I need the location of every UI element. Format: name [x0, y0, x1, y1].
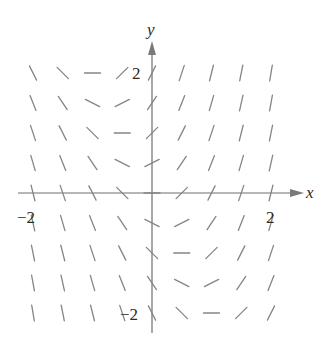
- slope-segment: [238, 246, 245, 260]
- slope-segment: [179, 65, 184, 80]
- slope-segment: [90, 275, 94, 290]
- slope-segment: [239, 155, 243, 170]
- y-tick-label-neg2: −2: [120, 305, 138, 324]
- slope-segment: [177, 156, 186, 169]
- slope-segment: [209, 95, 213, 110]
- slope-segment: [60, 156, 66, 171]
- slope-segment: [115, 99, 129, 106]
- slope-segment: [269, 155, 272, 171]
- x-tick-label-2: 2: [266, 208, 275, 227]
- slope-segment: [115, 159, 129, 166]
- slope-segment: [179, 96, 185, 111]
- slope-segment: [238, 216, 244, 231]
- slope-segment: [91, 305, 95, 321]
- slope-segment: [61, 215, 65, 230]
- slope-segment: [61, 245, 65, 261]
- slope-segment: [90, 216, 96, 231]
- slope-segment: [117, 67, 128, 78]
- slope-segment: [268, 245, 273, 260]
- slope-segment: [90, 245, 95, 260]
- slope-segment: [58, 96, 67, 109]
- y-axis-label: y: [145, 20, 155, 39]
- slope-segment: [85, 99, 99, 106]
- slope-segment: [119, 246, 126, 260]
- slope-segment: [87, 127, 98, 138]
- slope-segment: [31, 155, 35, 170]
- slope-segment: [30, 96, 36, 111]
- slope-segment: [30, 125, 35, 140]
- x-axis-label: x: [305, 183, 314, 202]
- slope-segment: [209, 156, 215, 171]
- slope-segment: [237, 276, 246, 289]
- y-tick-label-2: 2: [132, 64, 141, 83]
- slope-segment: [240, 65, 243, 81]
- slope-segment: [270, 95, 273, 111]
- y-axis-arrow-icon: [148, 41, 156, 55]
- x-axis-arrow-icon: [290, 189, 304, 197]
- slope-segment: [209, 125, 214, 140]
- slope-segment: [210, 65, 214, 81]
- slope-segment: [175, 219, 189, 226]
- slope-segment: [270, 65, 273, 81]
- slope-segment: [88, 156, 97, 169]
- slope-segment: [240, 95, 243, 111]
- slope-segment: [207, 216, 216, 229]
- slope-segment: [176, 307, 187, 318]
- slope-segment: [119, 276, 125, 291]
- slope-segment: [206, 247, 217, 258]
- slope-segment: [269, 125, 272, 141]
- slope-segment: [31, 245, 34, 261]
- slope-segment: [32, 305, 35, 321]
- slope-segment: [61, 275, 64, 291]
- slope-segment: [267, 306, 274, 320]
- slope-segment: [236, 307, 247, 318]
- slope-segment: [59, 126, 66, 140]
- slope-segment: [268, 276, 274, 291]
- slope-segment: [32, 275, 35, 291]
- slope-segment: [61, 305, 64, 321]
- slope-segment: [175, 279, 189, 286]
- slope-segment: [178, 126, 185, 140]
- slope-segment: [204, 279, 218, 286]
- slope-segment: [57, 67, 68, 78]
- slope-segment: [29, 66, 36, 80]
- slope-field-diagram: x y −2 2 2 −2: [0, 0, 334, 342]
- x-tick-label-neg2: −2: [17, 208, 35, 227]
- slope-segment: [118, 216, 127, 229]
- slope-segment: [239, 125, 243, 141]
